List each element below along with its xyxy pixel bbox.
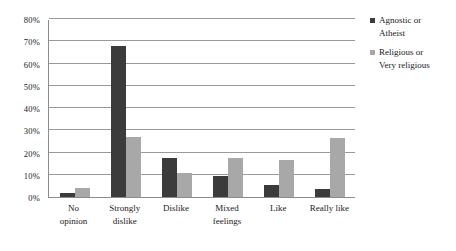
x-axis: NoopinionStronglydislikeDislikeMixedfeel… (48, 202, 355, 227)
y-axis-tick-label: 30% (24, 126, 40, 136)
legend-label-line: Atheist (379, 27, 421, 40)
y-axis-tick-label: 20% (24, 149, 40, 159)
bar-group (151, 20, 202, 197)
bar-group (100, 20, 151, 197)
x-axis-label-line: Strongly (99, 202, 150, 215)
x-axis-category-label: Really like (304, 202, 355, 227)
x-axis-category-label: Dislike (150, 202, 201, 227)
legend-swatch-icon (370, 50, 375, 55)
bar[interactable] (60, 193, 75, 197)
y-axis-tick-label: 10% (24, 171, 40, 181)
y-axis-tick-label: 80% (24, 15, 40, 25)
legend: Agnostic orAtheistReligious orVery relig… (370, 14, 456, 78)
bar[interactable] (162, 158, 177, 197)
y-axis-tick-label: 50% (24, 82, 40, 92)
bar-group (202, 20, 253, 197)
bar[interactable] (279, 160, 294, 197)
legend-item[interactable]: Religious orVery religious (370, 46, 456, 71)
bar[interactable] (315, 189, 330, 197)
bar-chart: 80%70%60%50%40%30%20%10%0% NoopinionStro… (0, 0, 456, 251)
x-axis-label-line: dislike (99, 215, 150, 228)
x-axis-label-line: No (48, 202, 99, 215)
x-axis-category-label: Noopinion (48, 202, 99, 227)
plot-wrapper: 80%70%60%50%40%30%20%10%0% NoopinionStro… (0, 0, 360, 210)
x-axis-category-label: Stronglydislike (99, 202, 150, 227)
bar[interactable] (213, 176, 228, 197)
x-axis-label-line: opinion (48, 215, 99, 228)
bar[interactable] (330, 138, 345, 197)
legend-label-line: Religious or (379, 46, 430, 59)
legend-label: Agnostic orAtheist (379, 14, 421, 39)
plot-area (48, 20, 355, 198)
bar[interactable] (228, 158, 243, 197)
bar[interactable] (126, 137, 141, 197)
x-axis-label-line: Really like (304, 202, 355, 215)
x-axis-label-line: Mixed (202, 202, 253, 215)
x-axis-category-label: Like (253, 202, 304, 227)
gridline (49, 18, 355, 19)
y-axis-tick-label: 0% (28, 193, 40, 203)
legend-label-line: Very religious (379, 59, 430, 72)
y-axis: 80%70%60%50%40%30%20%10%0% (0, 0, 44, 210)
bar[interactable] (111, 46, 126, 197)
y-axis-tick-label: 40% (24, 104, 40, 114)
x-axis-category-label: Mixedfeelings (202, 202, 253, 227)
x-axis-label-line: Like (253, 202, 304, 215)
y-axis-tick-label: 70% (24, 37, 40, 47)
bar[interactable] (75, 188, 90, 197)
legend-swatch-icon (370, 18, 375, 23)
x-axis-label-line: Dislike (150, 202, 201, 215)
legend-label-line: Agnostic or (379, 14, 421, 27)
bar-group (49, 20, 100, 197)
bar[interactable] (264, 185, 279, 197)
y-axis-tick-label: 60% (24, 60, 40, 70)
legend-label: Religious orVery religious (379, 46, 430, 71)
bar-group (253, 20, 304, 197)
bar-groups (49, 20, 355, 197)
bar[interactable] (177, 173, 192, 197)
x-axis-label-line: feelings (202, 215, 253, 228)
legend-item[interactable]: Agnostic orAtheist (370, 14, 456, 39)
bar-group (304, 20, 355, 197)
